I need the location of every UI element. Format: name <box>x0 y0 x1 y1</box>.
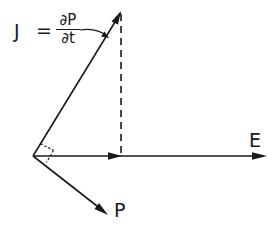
j-symbol: J <box>14 22 20 41</box>
e-vector <box>33 152 267 159</box>
e-label: E <box>249 131 261 150</box>
j-arrowhead-icon <box>112 11 122 25</box>
fraction-denominator: ∂t <box>56 31 80 46</box>
p-vector <box>33 156 108 215</box>
e-projection-arrowhead-icon <box>108 152 122 159</box>
j-fraction: ∂P ∂t <box>56 13 80 46</box>
right-angle-marker <box>41 144 54 163</box>
equals-sign: = <box>36 21 52 40</box>
fraction-numerator: ∂P <box>56 13 80 28</box>
p-label: P <box>114 201 125 220</box>
e-arrowhead-icon <box>252 152 267 159</box>
